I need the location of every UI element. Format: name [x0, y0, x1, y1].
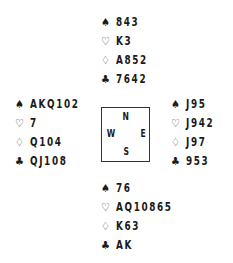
south-clubs: AK [116, 236, 133, 255]
north-hearts: K3 [116, 32, 132, 51]
west-clubs-row: ♣ QJ108 [15, 152, 90, 171]
north-clubs-row: ♣ 7642 [101, 70, 155, 89]
club-icon: ♣ [171, 152, 186, 171]
north-spades: 843 [116, 13, 139, 32]
diamond-icon: ♢ [101, 51, 116, 70]
north-diamonds-row: ♢ A852 [101, 51, 155, 70]
east-hearts: J942 [186, 114, 214, 133]
south-clubs-row: ♣ AK [101, 236, 185, 255]
heart-icon: ♡ [101, 198, 116, 217]
compass-north-label: N [123, 111, 129, 122]
south-diamonds-row: ♢ K63 [101, 217, 185, 236]
east-hearts-row: ♡ J942 [171, 114, 221, 133]
spade-icon: ♠ [171, 95, 186, 114]
north-clubs: 7642 [116, 70, 147, 89]
west-spades: AKQ102 [30, 95, 80, 114]
club-icon: ♣ [101, 236, 116, 255]
east-diamonds: J97 [186, 133, 207, 152]
east-clubs: 953 [186, 152, 209, 171]
diamond-icon: ♢ [171, 133, 186, 152]
north-spades-row: ♠ 843 [101, 13, 155, 32]
south-hand: ♠ 76 ♡ AQ10865 ♢ K63 ♣ AK [101, 179, 185, 255]
west-diamonds: Q104 [30, 133, 63, 152]
east-diamonds-row: ♢ J97 [171, 133, 221, 152]
compass-south-label: S [123, 146, 129, 157]
south-hearts-row: ♡ AQ10865 [101, 198, 185, 217]
heart-icon: ♡ [101, 32, 116, 51]
west-hand: ♠ AKQ102 ♡ 7 ♢ Q104 ♣ QJ108 [15, 95, 90, 171]
spade-icon: ♠ [101, 13, 116, 32]
north-diamonds: A852 [116, 51, 148, 70]
west-hearts: 7 [30, 114, 38, 133]
club-icon: ♣ [15, 152, 30, 171]
diamond-icon: ♢ [101, 217, 116, 236]
compass-west-label: W [107, 128, 115, 139]
west-hearts-row: ♡ 7 [15, 114, 90, 133]
spade-icon: ♠ [101, 179, 116, 198]
south-spades-row: ♠ 76 [101, 179, 185, 198]
compass-box: N W E S [101, 107, 150, 162]
diamond-icon: ♢ [15, 133, 30, 152]
compass-east-label: E [140, 128, 145, 139]
west-spades-row: ♠ AKQ102 [15, 95, 90, 114]
west-clubs: QJ108 [30, 152, 68, 171]
club-icon: ♣ [101, 70, 116, 89]
west-diamonds-row: ♢ Q104 [15, 133, 90, 152]
south-diamonds: K63 [116, 217, 140, 236]
south-spades: 76 [116, 179, 132, 198]
spade-icon: ♠ [15, 95, 30, 114]
east-spades: J95 [186, 95, 207, 114]
heart-icon: ♡ [171, 114, 186, 133]
north-hearts-row: ♡ K3 [101, 32, 155, 51]
east-hand: ♠ J95 ♡ J942 ♢ J97 ♣ 953 [171, 95, 221, 171]
south-hearts: AQ10865 [116, 198, 173, 217]
north-hand: ♠ 843 ♡ K3 ♢ A852 ♣ 7642 [101, 13, 155, 89]
heart-icon: ♡ [15, 114, 30, 133]
east-spades-row: ♠ J95 [171, 95, 221, 114]
east-clubs-row: ♣ 953 [171, 152, 221, 171]
